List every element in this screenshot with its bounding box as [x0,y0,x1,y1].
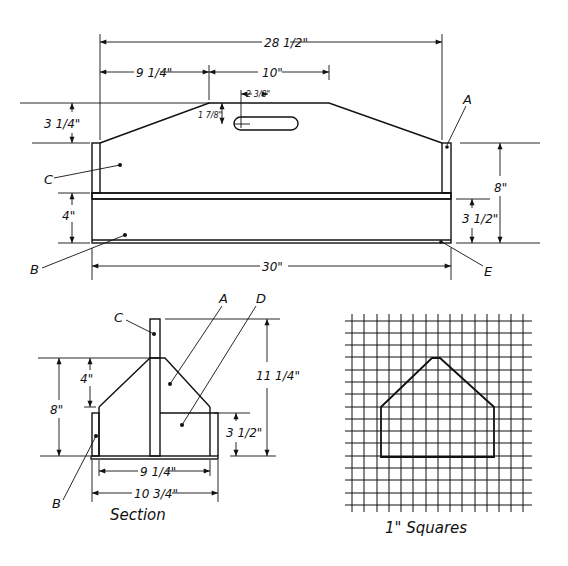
dim-box-height: 3 1/2" [462,212,498,226]
front-view: 28 1/2" 9 1/4" 10" 2 3/8" 1 7/8" 3 1/4" … [20,34,540,280]
dim-overall-top-width: 28 1/2" [264,36,308,50]
grid-caption: 1" Squares [385,519,467,537]
label-a: A [462,92,472,107]
section-label-d: D [256,291,266,306]
dim-flat-top-width: 10" [262,66,283,80]
handle-slot [234,117,298,130]
dim-slope-height: 3 1/4" [44,117,80,131]
dim-inner-width: 9 1/4" [140,465,176,479]
section-caption: Section [110,506,166,524]
label-c: C [44,172,54,187]
dim-top-height: 4" [80,372,93,386]
section-label-c: C [114,310,124,325]
dim-side-height: 4" [62,209,75,223]
dim-outer-width: 10 3/4" [134,487,178,501]
section-view: C A D B 4" 8" 11 1/4" 3 1/2" 9 1/4" 10 3… [38,291,300,524]
dim-total-height: 11 1/4" [256,369,300,383]
dim-overall-length: 30" [262,260,283,274]
one-inch-grid [345,314,532,512]
dim-slot-offset: 2 3/8" [246,90,270,99]
dim-overall-height: 8" [494,181,507,195]
label-b: B [30,262,39,277]
section-label-b: B [52,496,61,511]
label-e: E [484,264,493,279]
dim-section-box-height: 3 1/2" [226,426,262,440]
dim-end-height: 8" [50,403,63,417]
toolbox-plan-drawing: 28 1/2" 9 1/4" 10" 2 3/8" 1 7/8" 3 1/4" … [0,0,568,566]
grid-view: 1" Squares [345,314,532,537]
section-label-a: A [218,291,228,306]
dim-left-slope-width: 9 1/4" [136,66,172,80]
dim-slot-drop: 1 7/8" [198,111,222,120]
